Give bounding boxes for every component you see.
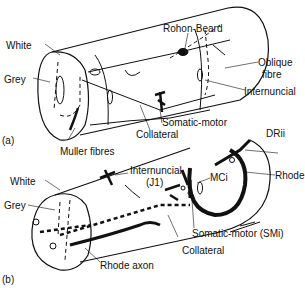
spinal-cord-diagram: [0, 0, 305, 288]
label-rhode-axon: Rhode axon: [100, 260, 154, 271]
label-oblique-fibre-1: Oblique: [258, 57, 292, 68]
label-oblique-fibre-2: fibre: [262, 69, 281, 80]
label-somatic-motor-b: Somatic-motor (SMi): [192, 228, 284, 239]
label-internuncial-b-1: Internuncial: [130, 165, 182, 176]
panel-b-tag: (b): [2, 274, 14, 285]
label-white-b: White: [10, 176, 36, 187]
label-collateral-a: Collateral: [136, 129, 178, 140]
label-internuncial-a: Internuncial: [244, 86, 296, 97]
label-white-a: White: [6, 40, 32, 51]
label-grey-b: Grey: [4, 200, 26, 211]
label-internuncial-b-2: (J1): [146, 177, 163, 188]
label-drii: DRii: [266, 128, 285, 139]
panel-a-tag: (a): [2, 135, 14, 146]
label-rhode: Rhode: [275, 170, 304, 181]
label-muller-fibres: Muller fibres: [60, 146, 114, 157]
label-mci: MCi: [210, 172, 228, 183]
label-somatic-motor-a: Somatic-motor: [162, 117, 227, 128]
label-rohon-beard: Rohon-Beard: [163, 23, 222, 34]
panel-b-cylinder: [32, 140, 270, 270]
panel-a-cylinder: [38, 7, 269, 140]
label-collateral-b: Collateral: [182, 245, 224, 256]
label-grey-a: Grey: [4, 74, 26, 85]
